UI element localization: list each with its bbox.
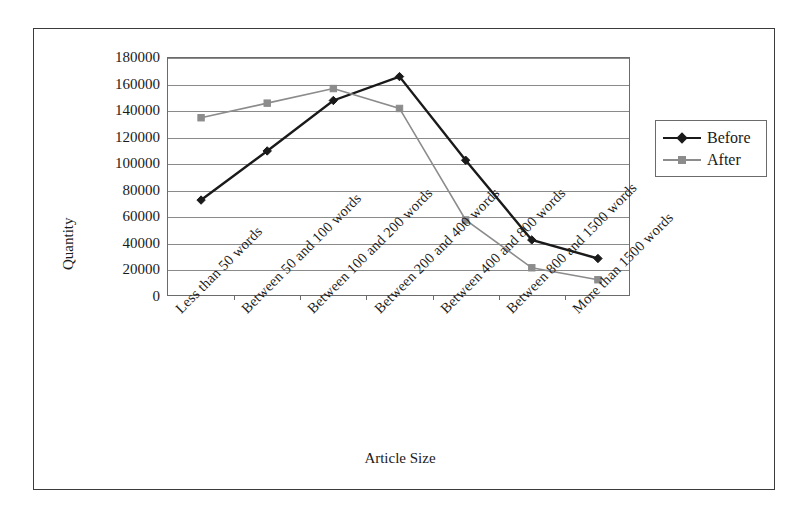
y-axis-tick-label: 180000 [115,50,160,65]
y-axis-tick-labels: 1800001600001400001200001000008000060000… [60,57,160,296]
x-axis-title: Article Size [0,450,800,467]
data-point [594,254,602,262]
y-axis-tick-label: 0 [153,289,161,304]
y-axis-tick-label: 120000 [115,130,160,145]
y-axis-tick-label: 140000 [115,103,160,118]
y-axis-tick-label: 20000 [123,262,161,277]
y-axis-tick-label: 160000 [115,77,160,92]
legend-label-after: After [707,152,741,168]
series-line-after [201,89,598,280]
legend-item-after: After [663,149,759,171]
y-axis-tick-label: 40000 [123,236,161,251]
legend-label-before: Before [707,130,751,146]
data-point [264,100,270,106]
data-point [330,85,336,91]
y-axis-tick-label: 80000 [123,183,161,198]
legend-swatch-before [663,132,701,144]
y-axis-tick-label: 60000 [123,209,161,224]
legend-item-before: Before [663,127,759,149]
chart-figure: Quantity 1800001600001400001200001000008… [0,0,800,519]
y-axis-tick-label: 100000 [115,156,160,171]
data-point [396,105,402,111]
chart-legend: Before After [655,120,767,177]
legend-swatch-after [663,154,701,166]
data-point [198,115,204,121]
data-point [529,265,535,271]
